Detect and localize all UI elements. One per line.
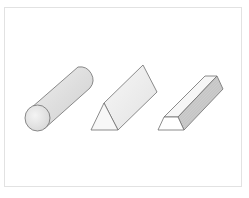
shapes-canvas	[0, 0, 249, 198]
cylinder-shape	[25, 67, 93, 131]
trapezoidal-prism-shape	[158, 76, 223, 130]
triangular-prism-shape	[91, 65, 157, 130]
